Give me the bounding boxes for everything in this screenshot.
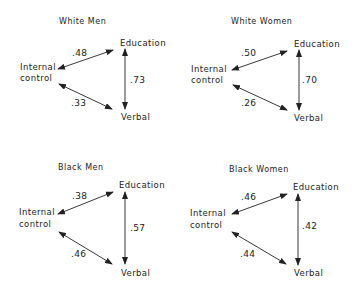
coef-education-verbal: .57 [130,223,145,233]
node-internal-control-line2: control [190,220,222,230]
node-verbal: Verbal [121,268,150,278]
node-internal-control-line1: Internal [19,207,55,217]
panel-title: White Men [59,17,106,27]
panel-title: Black Women [229,165,289,175]
node-internal-control-line1: Internal [191,64,227,74]
coef-ic-verbal: .33 [71,98,86,108]
coef-education-verbal: .42 [302,221,317,231]
panel-black-men: Black Men Education Internal control Ver… [0,145,178,290]
coef-ic-education: .48 [72,48,87,58]
node-education: Education [120,38,166,48]
coef-ic-education: .50 [241,48,256,58]
panel-white-women: White Women Education Internal control V… [177,0,355,145]
coef-ic-education: .38 [72,191,87,201]
panel-black-women: Black Women Education Internal control V… [177,145,355,290]
coef-education-verbal: .70 [302,75,317,85]
arrow-ic-verbal [59,232,112,264]
node-verbal: Verbal [294,268,323,278]
panel-title: White Women [231,17,292,27]
node-education: Education [294,39,340,49]
coef-education-verbal: .73 [130,75,145,85]
node-internal-control-line2: control [20,73,52,83]
node-internal-control-line1: Internal [190,208,226,218]
coef-ic-education: .46 [241,192,256,202]
panel-white-men: White Men Education Internal control Ver… [0,0,178,145]
node-education: Education [119,180,165,190]
node-verbal: Verbal [121,112,150,122]
node-verbal: Verbal [294,113,323,123]
panel-title: Black Men [58,163,104,173]
node-internal-control-line2: control [19,219,51,229]
arrow-ic-verbal [232,232,286,264]
coef-ic-verbal: .44 [240,249,255,259]
node-education: Education [293,182,339,192]
node-internal-control-line1: Internal [20,62,56,72]
node-internal-control-line2: control [191,75,223,85]
coef-ic-verbal: .26 [241,98,256,108]
coef-ic-verbal: .46 [71,249,86,259]
